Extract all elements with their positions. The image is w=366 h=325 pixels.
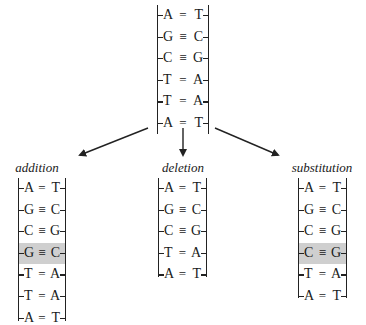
- backbone-tick: [60, 274, 65, 275]
- original-dna-strand: A=TG≡CC≡GT=AT=AA=T: [157, 5, 209, 134]
- right-base: A: [193, 92, 203, 110]
- arrow-to-substitution: [215, 128, 278, 155]
- right-base: C: [192, 201, 201, 219]
- right-base: A: [331, 265, 341, 283]
- base-pair: A=T: [158, 113, 208, 135]
- base-pair: A=T: [19, 308, 65, 325]
- base-pair: G≡C: [299, 200, 346, 222]
- backbone-tick: [341, 274, 346, 275]
- right-base: A: [50, 265, 60, 283]
- right-base: T: [194, 6, 203, 24]
- backbone-tick: [203, 15, 208, 16]
- base-pair: T=A: [158, 91, 208, 113]
- right-base: C: [51, 201, 60, 219]
- base-pair: T=A: [19, 264, 65, 286]
- right-base: T: [332, 179, 341, 197]
- backbone-tick: [201, 274, 206, 275]
- base-pair: A=T: [158, 5, 208, 27]
- backbone-tick: [341, 210, 346, 211]
- right-base: T: [51, 309, 60, 325]
- backbone-tick: [60, 253, 65, 254]
- backbone-tick: [203, 80, 208, 81]
- backbone-tick: [341, 296, 346, 297]
- backbone-tick: [341, 188, 346, 189]
- backbone-tick: [203, 123, 208, 124]
- mutated-base-pair: G≡C: [19, 243, 65, 265]
- right-base: T: [194, 114, 203, 132]
- label-substitution: substitution: [280, 160, 364, 176]
- addition-dna-strand: A=TG≡CC≡GG≡CT=AT=AA=T: [18, 178, 66, 321]
- right-base: T: [332, 287, 341, 305]
- right-base: T: [51, 179, 60, 197]
- backbone-tick: [201, 231, 206, 232]
- base-pair: C≡G: [158, 48, 208, 70]
- base-pair: A=T: [299, 286, 346, 308]
- base-pair: C≡G: [299, 221, 346, 243]
- mutated-base-pair: C≡G: [299, 243, 346, 265]
- label-deletion: deletion: [148, 160, 218, 176]
- backbone-tick: [341, 231, 346, 232]
- base-pair: T=A: [19, 286, 65, 308]
- backbone-tick: [201, 210, 206, 211]
- backbone-tick: [60, 210, 65, 211]
- backbone-tick: [60, 188, 65, 189]
- base-pair: C≡G: [19, 221, 65, 243]
- arrow-to-addition: [80, 128, 148, 155]
- backbone-tick: [203, 101, 208, 102]
- backbone-tick: [60, 296, 65, 297]
- right-base: G: [50, 222, 60, 240]
- base-pair: A=T: [299, 178, 346, 200]
- base-pair: A=T: [19, 178, 65, 200]
- base-pair: A=T: [159, 178, 206, 200]
- right-base: C: [332, 201, 341, 219]
- right-base: T: [192, 265, 201, 283]
- backbone-tick: [201, 253, 206, 254]
- right-base: G: [191, 222, 201, 240]
- base-pair: G≡C: [19, 200, 65, 222]
- base-pair: T=A: [299, 264, 346, 286]
- right-base: G: [331, 222, 341, 240]
- right-base: G: [193, 49, 203, 67]
- substitution-dna-strand: A=TG≡CC≡GC≡GT=AA=T: [298, 178, 347, 298]
- deletion-dna-strand: A=TG≡CC≡GT=AA=T: [158, 178, 207, 277]
- right-base: A: [50, 287, 60, 305]
- right-base: C: [51, 244, 60, 262]
- right-base: G: [331, 244, 341, 262]
- base-pair: T=A: [159, 243, 206, 265]
- right-base: A: [191, 244, 201, 262]
- right-base: T: [192, 179, 201, 197]
- label-addition: addition: [2, 160, 72, 176]
- backbone-tick: [203, 37, 208, 38]
- backbone-tick: [203, 58, 208, 59]
- base-pair: T=A: [158, 70, 208, 92]
- base-pair: A=T: [159, 264, 206, 286]
- backbone-tick: [341, 253, 346, 254]
- right-base: A: [193, 71, 203, 89]
- backbone-tick: [201, 188, 206, 189]
- backbone-tick: [60, 318, 65, 319]
- right-base: C: [194, 28, 203, 46]
- base-pair: C≡G: [159, 221, 206, 243]
- base-pair: G≡C: [159, 200, 206, 222]
- base-pair: G≡C: [158, 27, 208, 49]
- backbone-tick: [60, 231, 65, 232]
